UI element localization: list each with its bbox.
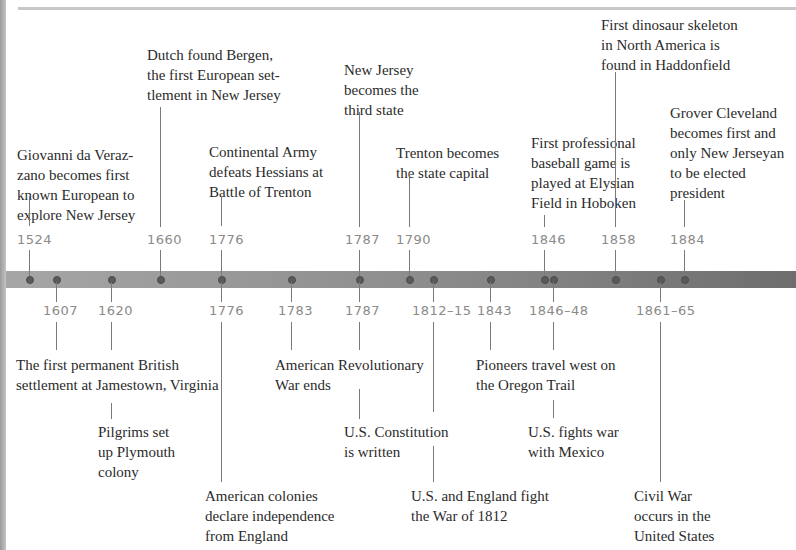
event-marker-1783 (288, 276, 296, 284)
event-label-1790-capital: Trenton becomes the state capital (396, 143, 499, 183)
event-marker-1790 (406, 276, 414, 284)
event-label-1812-war: U.S. and England fight the War of 1812 (411, 486, 549, 526)
year-label-1861-65: 1861–65 (636, 303, 696, 318)
event-label-1524-verazzano: Giovanni da Veraz- zano becomes first kn… (17, 145, 135, 225)
year-label-1660: 1660 (147, 232, 182, 247)
year-label-1790: 1790 (396, 232, 431, 247)
year-label-1776-below: 1776 (209, 303, 244, 318)
event-marker-1620 (108, 276, 116, 284)
event-marker-1884 (681, 276, 689, 284)
connector-line (359, 389, 360, 419)
connector-line (56, 322, 57, 350)
connector-line (433, 282, 434, 302)
year-label-1607: 1607 (43, 303, 78, 318)
year-label-1524: 1524 (17, 232, 52, 247)
header-rule (18, 7, 796, 10)
year-label-1846: 1846 (531, 232, 566, 247)
connector-line (660, 282, 661, 302)
year-label-1858: 1858 (601, 232, 636, 247)
connector-line (29, 196, 30, 226)
year-label-1843: 1843 (477, 303, 512, 318)
event-marker-1846-48 (550, 276, 558, 284)
event-label-1787-third-state: New Jersey becomes the third state (344, 60, 419, 120)
connector-line (409, 250, 410, 278)
connector-line (544, 215, 545, 227)
event-marker-1524 (26, 276, 34, 284)
connector-line (433, 322, 434, 412)
connector-line (111, 322, 112, 350)
connector-line (160, 250, 161, 278)
connector-line (221, 250, 222, 278)
connector-line (544, 250, 545, 278)
connector-line (553, 322, 554, 350)
connector-line (553, 282, 554, 302)
event-label-1620-plymouth: Pilgrims set up Plymouth colony (98, 422, 175, 482)
event-label-1607-jamestown: The first permanent British settlement a… (16, 355, 219, 395)
connector-line (56, 282, 57, 302)
event-marker-1787 (356, 276, 364, 284)
connector-line (111, 403, 112, 419)
connector-line (359, 282, 360, 302)
event-label-1843-oregon-trail: Pioneers travel west on the Oregon Trail (476, 355, 616, 395)
year-label-1812-15: 1812–15 (412, 303, 472, 318)
connector-line (359, 250, 360, 278)
connector-line (553, 400, 554, 418)
year-label-1787-above: 1787 (345, 232, 380, 247)
connector-line (221, 196, 222, 226)
connector-line (221, 322, 222, 482)
event-marker-1843 (487, 276, 495, 284)
connector-line (221, 282, 222, 302)
connector-line (291, 282, 292, 302)
year-label-1776-above: 1776 (209, 232, 244, 247)
event-marker-1858 (612, 276, 620, 284)
event-marker-1812 (430, 276, 438, 284)
connector-line (433, 446, 434, 482)
connector-line (29, 250, 30, 278)
connector-line (684, 200, 685, 227)
year-label-1620: 1620 (98, 303, 133, 318)
event-marker-1607 (53, 276, 61, 284)
event-label-1846-mexico-war: U.S. fights war with Mexico (528, 422, 619, 462)
event-label-1660-bergen: Dutch found Bergen, the first European s… (147, 45, 281, 105)
year-label-1884: 1884 (670, 232, 705, 247)
event-marker-1660 (157, 276, 165, 284)
connector-line (490, 322, 491, 350)
connector-line (660, 322, 661, 482)
connector-line (615, 72, 616, 227)
connector-line (111, 282, 112, 302)
year-label-1846-48: 1846–48 (529, 303, 589, 318)
event-label-1861-civil-war: Civil War occurs in the United States (634, 486, 714, 546)
event-marker-1861-65 (657, 276, 665, 284)
connector-line (359, 322, 360, 350)
event-marker-1776 (218, 276, 226, 284)
event-label-1846-baseball: First professional baseball game is play… (531, 133, 636, 213)
event-label-1776-independence: American colonies declare independence f… (205, 486, 335, 546)
connector-line (160, 107, 161, 227)
timeline-bar (6, 271, 796, 288)
event-label-1783-war-ends: American Revolutionary War ends (275, 355, 424, 395)
connector-line (409, 173, 410, 227)
event-label-1858-dinosaur: First dinosaur skeleton in North America… (601, 15, 738, 75)
year-label-1783: 1783 (278, 303, 313, 318)
event-label-1884-cleveland: Grover Cleveland becomes first and only … (670, 103, 784, 203)
connector-line (359, 112, 360, 227)
event-marker-1846 (541, 276, 549, 284)
year-label-1787-below: 1787 (345, 303, 380, 318)
connector-line (291, 322, 292, 350)
connector-line (615, 250, 616, 278)
connector-line (684, 250, 685, 278)
connector-line (490, 282, 491, 302)
event-label-1776-trenton-battle: Continental Army defeats Hessians at Bat… (209, 142, 323, 202)
